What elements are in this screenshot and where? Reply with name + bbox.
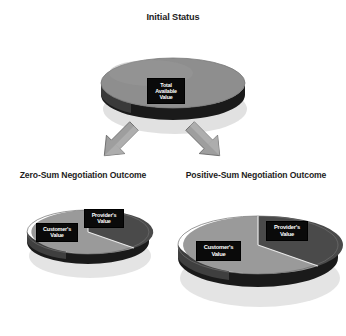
positive-sum-customers-value-label: Customer's Value [196, 241, 241, 261]
zero-sum-providers-value-label: Provider's Value [84, 209, 124, 228]
total-available-value-label: Total Available Value [147, 78, 185, 104]
providers-value-line2: Value [270, 231, 304, 238]
customers-value-line2: Value [40, 232, 74, 238]
positive-sum-pie [166, 186, 346, 316]
flow-arrows [92, 122, 232, 172]
positive-sum-providers-value-label: Provider's Value [266, 221, 308, 241]
arrow-to-positive-sum-icon [181, 117, 229, 165]
total-available-value-line3: Value [151, 94, 181, 100]
arrow-to-zero-sum-icon [95, 117, 143, 165]
positive-sum-title: Positive-Sum Negotiation Outcome [166, 170, 346, 180]
negotiation-outcomes-diagram: Initial Status Total Available Value [0, 0, 346, 336]
zero-sum-customers-value-label: Customer's Value [36, 223, 78, 242]
providers-value-line2: Value [88, 218, 120, 224]
initial-status-title: Initial Status [0, 12, 346, 22]
zero-sum-title: Zero-Sum Negotiation Outcome [0, 170, 166, 180]
customers-value-line1: Customer's [200, 244, 237, 251]
providers-value-line1: Provider's [270, 224, 304, 231]
customers-value-line2: Value [200, 251, 237, 258]
